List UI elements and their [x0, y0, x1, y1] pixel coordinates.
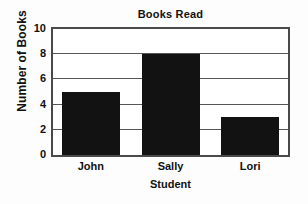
bar — [62, 92, 120, 155]
x-tick-label: John — [51, 160, 131, 172]
y-tick-label: 10 — [20, 23, 46, 34]
x-tick-label: Lori — [210, 160, 290, 172]
bar — [221, 117, 279, 155]
y-tick-label: 4 — [20, 99, 46, 110]
y-tick-label: 2 — [20, 124, 46, 135]
bar — [142, 54, 200, 155]
x-tick-label: Sally — [131, 160, 211, 172]
chart-title: Books Read — [51, 8, 290, 20]
y-tick-label: 8 — [20, 48, 46, 59]
bar-chart-figure: Books Read Number of Books Student 02468… — [0, 0, 308, 204]
x-axis-title: Student — [51, 178, 290, 190]
y-tick-label: 6 — [20, 73, 46, 84]
y-tick-label: 0 — [20, 149, 46, 160]
plot-area — [51, 27, 290, 157]
